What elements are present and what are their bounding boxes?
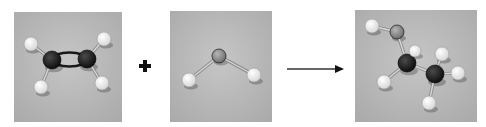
oxygen-atom [390,25,404,39]
ethanol-model-photo [355,10,477,122]
hydrogen-atom [97,32,111,46]
plus-sign [138,58,152,74]
carbon-atom [426,65,444,83]
water-model-photo [170,11,272,122]
hydrogen-atom [34,80,48,94]
hydrogen-atom [247,68,261,82]
hydrogen-atom [435,47,449,61]
hydrogen-atom [182,73,196,87]
hydrogen-atom [365,19,379,33]
hydrogen-atom [377,75,391,89]
hydrogen-atom [451,66,465,80]
hydrogen-atom [409,45,421,57]
reaction-arrow-icon [285,60,347,72]
hydrogen-atom [24,37,38,51]
oxygen-atom [212,49,226,63]
carbon-atom [43,51,61,69]
carbon-atom [78,50,96,68]
hydrogen-atom [95,76,109,90]
ethene-model-photo [14,12,122,122]
hydrogen-atom [422,96,436,110]
